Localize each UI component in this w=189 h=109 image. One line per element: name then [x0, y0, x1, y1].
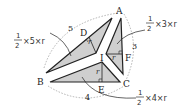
formula-abi-num: 1 — [16, 32, 20, 40]
formula-bci-num: 1 — [138, 89, 142, 97]
formula-bci-rest: ×4×r — [145, 94, 167, 103]
side-ac-length: 3 — [132, 42, 137, 51]
tangent-e-label: E — [98, 85, 105, 95]
formula-aci-rest: ×3×r — [155, 20, 177, 29]
formula-aci-num: 1 — [148, 15, 152, 23]
vertex-b-label: B — [37, 77, 44, 87]
formula-abi-rest: ×5×r — [23, 37, 45, 46]
formula-aci: 1 2 ×3×r — [146, 15, 177, 33]
formula-abi-den: 2 — [15, 42, 19, 50]
side-bc-length: 4 — [85, 93, 90, 102]
incircle-area-diagram: r r r A B C I D E F 5 3 4 1 2 ×5×r 1 2 ×… — [0, 0, 189, 109]
formula-bci: 1 2 ×4×r — [136, 89, 167, 107]
vertex-c-label: C — [123, 79, 130, 89]
vertex-a-label: A — [115, 6, 123, 16]
tangent-f-label: F — [125, 53, 131, 63]
side-ab-length: 5 — [68, 24, 73, 33]
incenter-i-label: I — [100, 53, 104, 63]
tangent-d-label: D — [80, 28, 87, 38]
dashed-arc-ab — [44, 13, 118, 68]
arrow-curve-abi — [50, 33, 71, 56]
formula-bci-den: 2 — [137, 99, 141, 107]
formula-abi: 1 2 ×5×r — [14, 32, 45, 50]
formula-aci-den: 2 — [147, 25, 151, 33]
